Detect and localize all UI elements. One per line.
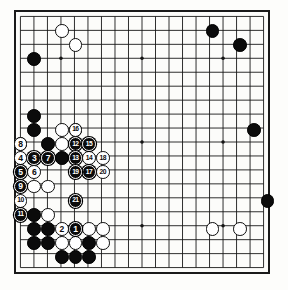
black-stone [27, 52, 41, 66]
move-1-black-stone: 1 [69, 222, 83, 236]
black-stone [27, 236, 41, 250]
go-diagram-page: 123456789101112131415161718192021 [0, 0, 288, 290]
white-stone [55, 123, 69, 137]
move-number-label: 4 [18, 154, 22, 163]
move-number-label: 5 [18, 168, 22, 177]
black-stone [233, 38, 247, 52]
move-number-label: 18 [100, 155, 106, 162]
white-stone [69, 38, 83, 52]
move-16-white-stone: 16 [69, 123, 83, 137]
white-stone [41, 208, 55, 222]
white-stone [55, 137, 69, 151]
go-board[interactable]: 123456789101112131415161718192021 [14, 10, 270, 274]
move-3-black-stone: 3 [27, 151, 41, 165]
black-stone [27, 123, 41, 137]
black-stone [82, 236, 96, 250]
black-stone [206, 24, 220, 38]
black-stone [41, 222, 55, 236]
move-number-label: 1 [73, 225, 77, 234]
move-number-label: 3 [32, 154, 36, 163]
move-14-white-stone: 14 [82, 151, 96, 165]
black-stone [261, 194, 275, 208]
move-number-label: 21 [72, 197, 78, 204]
white-stone [96, 222, 110, 236]
move-10-white-stone: 10 [14, 194, 28, 208]
move-number-label: 6 [32, 168, 36, 177]
white-stone [55, 24, 69, 38]
move-7-black-stone: 7 [41, 151, 55, 165]
white-stone [96, 236, 110, 250]
move-number-label: 11 [17, 211, 23, 218]
move-2-white-stone: 2 [55, 222, 69, 236]
black-stone [27, 109, 41, 123]
move-number-label: 2 [60, 225, 64, 234]
move-8-white-stone: 8 [14, 137, 28, 151]
move-number-label: 14 [86, 155, 92, 162]
move-11-black-stone: 11 [14, 208, 28, 222]
black-stone [27, 208, 41, 222]
black-stone [55, 151, 69, 165]
move-number-label: 15 [86, 141, 92, 148]
move-21-black-stone: 21 [69, 194, 83, 208]
white-stone [233, 222, 247, 236]
move-15-black-stone: 15 [82, 137, 96, 151]
move-number-label: 8 [18, 140, 22, 149]
move-number-label: 9 [18, 182, 22, 191]
move-number-label: 16 [72, 126, 78, 133]
move-20-white-stone: 20 [96, 165, 110, 179]
move-number-label: 20 [100, 169, 106, 176]
black-stone [27, 222, 41, 236]
black-stone [41, 137, 55, 151]
black-stone [41, 236, 55, 250]
move-13-black-stone: 13 [69, 151, 83, 165]
black-stone [55, 250, 69, 264]
black-stone [247, 123, 261, 137]
move-18-white-stone: 18 [96, 151, 110, 165]
move-number-label: 12 [72, 141, 78, 148]
white-stone [41, 180, 55, 194]
white-stone [82, 222, 96, 236]
move-number-label: 7 [46, 154, 50, 163]
move-number-label: 13 [72, 155, 78, 162]
move-number-label: 17 [86, 169, 92, 176]
move-12-black-stone: 12 [69, 137, 83, 151]
white-stone [69, 236, 83, 250]
white-stone [55, 236, 69, 250]
move-number-label: 10 [17, 197, 23, 204]
move-number-label: 19 [72, 169, 78, 176]
